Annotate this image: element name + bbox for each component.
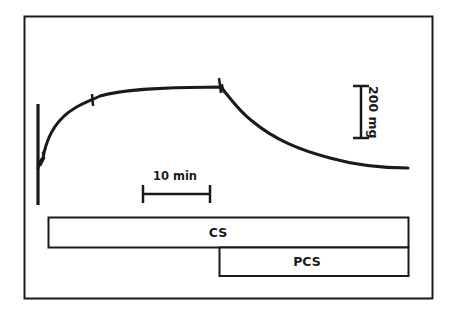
trace-tick-mark (219, 78, 221, 93)
cs-bar: CS (49, 218, 409, 248)
trace-tick-mark (222, 84, 224, 93)
pcs-label: PCS (293, 254, 321, 269)
cs-label: CS (209, 225, 227, 240)
force-scale-bar: 200 mg (353, 86, 381, 138)
time-scale-label: 10 min (153, 169, 197, 183)
figure-canvas: 200 mg 10 min CS PCS (0, 0, 455, 316)
pcs-bar: PCS (220, 248, 409, 277)
trace-tick-mark (92, 94, 93, 106)
force-scale-label: 200 mg (366, 86, 381, 138)
time-scale-bar: 10 min (143, 169, 210, 203)
